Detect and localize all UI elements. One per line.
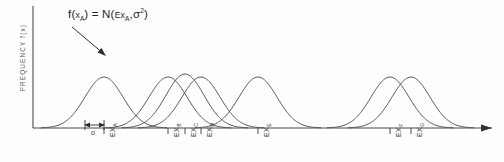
annotation-leader-arrow	[72, 27, 106, 56]
tick-label-text: EX	[415, 127, 424, 137]
x-tick-label-b: EXB	[172, 123, 182, 137]
tick-label-text: EX	[205, 127, 214, 137]
normal-distribution-figure: FREQUENCY f(x) f(xA) = N(ExA,σ2) σ EXAEX…	[0, 0, 504, 162]
x-tick-label-c: EXC	[189, 123, 199, 137]
tick-label-subscript: A	[112, 123, 118, 127]
x-axis-ticks	[104, 128, 411, 134]
x-tick-label-f: EXF	[394, 123, 404, 137]
x-tick-label-g: EXG	[415, 123, 425, 137]
tick-label-text: EX	[394, 127, 403, 137]
tick-label-subscript: D	[209, 123, 215, 127]
formula-f-close: )	[84, 8, 88, 20]
gaussian-curve	[327, 77, 452, 128]
gaussian-curve	[348, 77, 473, 128]
x-tick-label-d: EXD	[205, 123, 215, 137]
annotation-formula: f(xA) = N(ExA,σ2)	[68, 7, 148, 22]
tick-label-text: EX	[108, 127, 117, 137]
gaussian-curve	[195, 77, 320, 128]
tick-label-subscript: G	[419, 123, 425, 127]
tick-label-subscript: E	[266, 123, 272, 127]
tick-label-subscript: C	[193, 123, 199, 127]
tick-label-subscript: F	[398, 123, 404, 126]
formula-dist-open: N(	[102, 8, 115, 20]
tick-label-subscript: B	[176, 123, 182, 127]
sigma-marker-label: σ	[91, 128, 95, 137]
distribution-curves	[41, 74, 473, 128]
x-tick-label-e: EXE	[262, 123, 272, 137]
formula-equals: =	[92, 8, 99, 20]
x-tick-label-a: EXA	[108, 123, 118, 137]
plot-canvas	[0, 0, 504, 162]
tick-label-text: EX	[172, 127, 181, 137]
gaussian-curve	[122, 74, 247, 128]
tick-label-text: EX	[262, 127, 271, 137]
x-axis-arrowhead	[481, 125, 492, 132]
y-axis-label: FREQUENCY f(x)	[19, 10, 26, 106]
tick-label-text: EX	[189, 127, 198, 137]
formula-dist-close: )	[144, 8, 148, 20]
